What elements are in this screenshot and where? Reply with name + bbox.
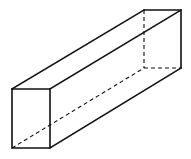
visible-edge	[50, 10, 181, 89]
visible-edges	[12, 10, 181, 148]
hidden-edge	[12, 68, 144, 148]
hidden-edges	[12, 10, 181, 148]
front-face	[12, 89, 50, 148]
back-face-visible-edges	[144, 10, 181, 68]
visible-edge	[12, 10, 144, 89]
rectangular-prism-diagram	[0, 0, 191, 159]
visible-edge	[50, 68, 181, 148]
